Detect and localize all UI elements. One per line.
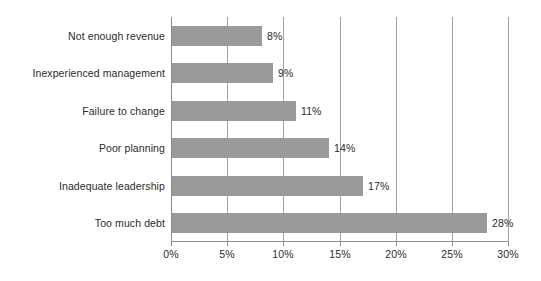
x-tick-mark: [283, 242, 284, 246]
plot-area: 8%9%11%14%17%28%: [171, 17, 508, 242]
bar: [172, 101, 296, 121]
bar: [172, 26, 262, 46]
bar: [172, 213, 487, 233]
x-tick-label: 25%: [441, 248, 462, 260]
category-label: Failure to change: [0, 105, 165, 117]
category-label: Too much debt: [0, 217, 165, 229]
x-tick-label: 0%: [163, 248, 178, 260]
x-tick-label: 20%: [385, 248, 406, 260]
bar-value-label: 9%: [278, 67, 293, 79]
bar-value-label: 14%: [334, 142, 355, 154]
bar: [172, 63, 273, 83]
y-axis-line: [171, 17, 172, 242]
gridline: [340, 17, 341, 242]
x-tick-label: 5%: [219, 248, 234, 260]
category-label: Not enough revenue: [0, 30, 165, 42]
category-label: Poor planning: [0, 142, 165, 154]
bar-value-label: 11%: [301, 105, 322, 117]
x-tick-label: 30%: [497, 248, 518, 260]
bar: [172, 176, 363, 196]
category-label: Inexperienced management: [0, 67, 165, 79]
gridline: [396, 17, 397, 242]
value-axis: 0%5%10%15%20%25%30%: [171, 246, 516, 264]
gridline: [452, 17, 453, 242]
bar-chart: Not enough revenueInexperienced manageme…: [0, 0, 541, 281]
category-axis: Not enough revenueInexperienced manageme…: [0, 17, 165, 242]
category-label: Inadequate leadership: [0, 180, 165, 192]
gridline: [283, 17, 284, 242]
x-tick-mark: [340, 242, 341, 246]
bar-value-label: 28%: [492, 217, 513, 229]
gridline: [508, 17, 509, 242]
x-tick-mark: [171, 242, 172, 246]
x-tick-mark: [452, 242, 453, 246]
bar: [172, 138, 329, 158]
gridline: [227, 17, 228, 242]
x-tick-mark: [508, 242, 509, 246]
x-tick-mark: [227, 242, 228, 246]
bar-value-label: 17%: [368, 180, 389, 192]
bar-value-label: 8%: [267, 30, 282, 42]
x-tick-label: 15%: [329, 248, 350, 260]
x-tick-label: 10%: [272, 248, 293, 260]
x-tick-mark: [396, 242, 397, 246]
